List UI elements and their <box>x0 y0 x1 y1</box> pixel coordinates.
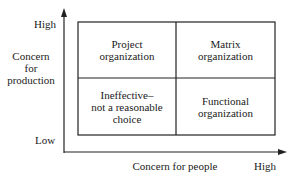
quadrant-bottom-right: Functional organization <box>177 79 274 134</box>
quadrant-text-line: Ineffective– <box>91 89 162 101</box>
quadrant-text-line: Matrix <box>198 38 253 50</box>
x-axis-high-label: High <box>250 160 280 172</box>
quadrant-text-line: Functional <box>198 95 253 107</box>
y-axis-title-line: Concern <box>2 50 60 62</box>
quadrant-top-right: Matrix organization <box>177 23 274 77</box>
y-axis-arrow-icon <box>61 8 67 17</box>
x-axis-title: Concern for people <box>110 160 240 172</box>
quadrant-text-line: organization <box>100 50 155 62</box>
quadrant-text-line: organization <box>198 107 253 119</box>
quadrant-text-line: choice <box>91 113 162 125</box>
quadrant-text-line: not a reasonable <box>91 101 162 113</box>
quadrant-bottom-left: Ineffective– not a reasonable choice <box>79 79 175 134</box>
y-axis-title: Concern for production <box>2 50 60 86</box>
x-axis-arrow-icon <box>278 149 287 155</box>
y-axis-title-line: production <box>2 74 60 86</box>
y-axis-low-label: Low <box>30 134 60 146</box>
quadrant-text-line: organization <box>198 50 253 62</box>
quadrant-top-left: Project organization <box>79 23 175 77</box>
y-axis-title-line: for <box>2 62 60 74</box>
y-axis-high-label: High <box>30 18 60 30</box>
quadrant-text-line: Project <box>100 38 155 50</box>
